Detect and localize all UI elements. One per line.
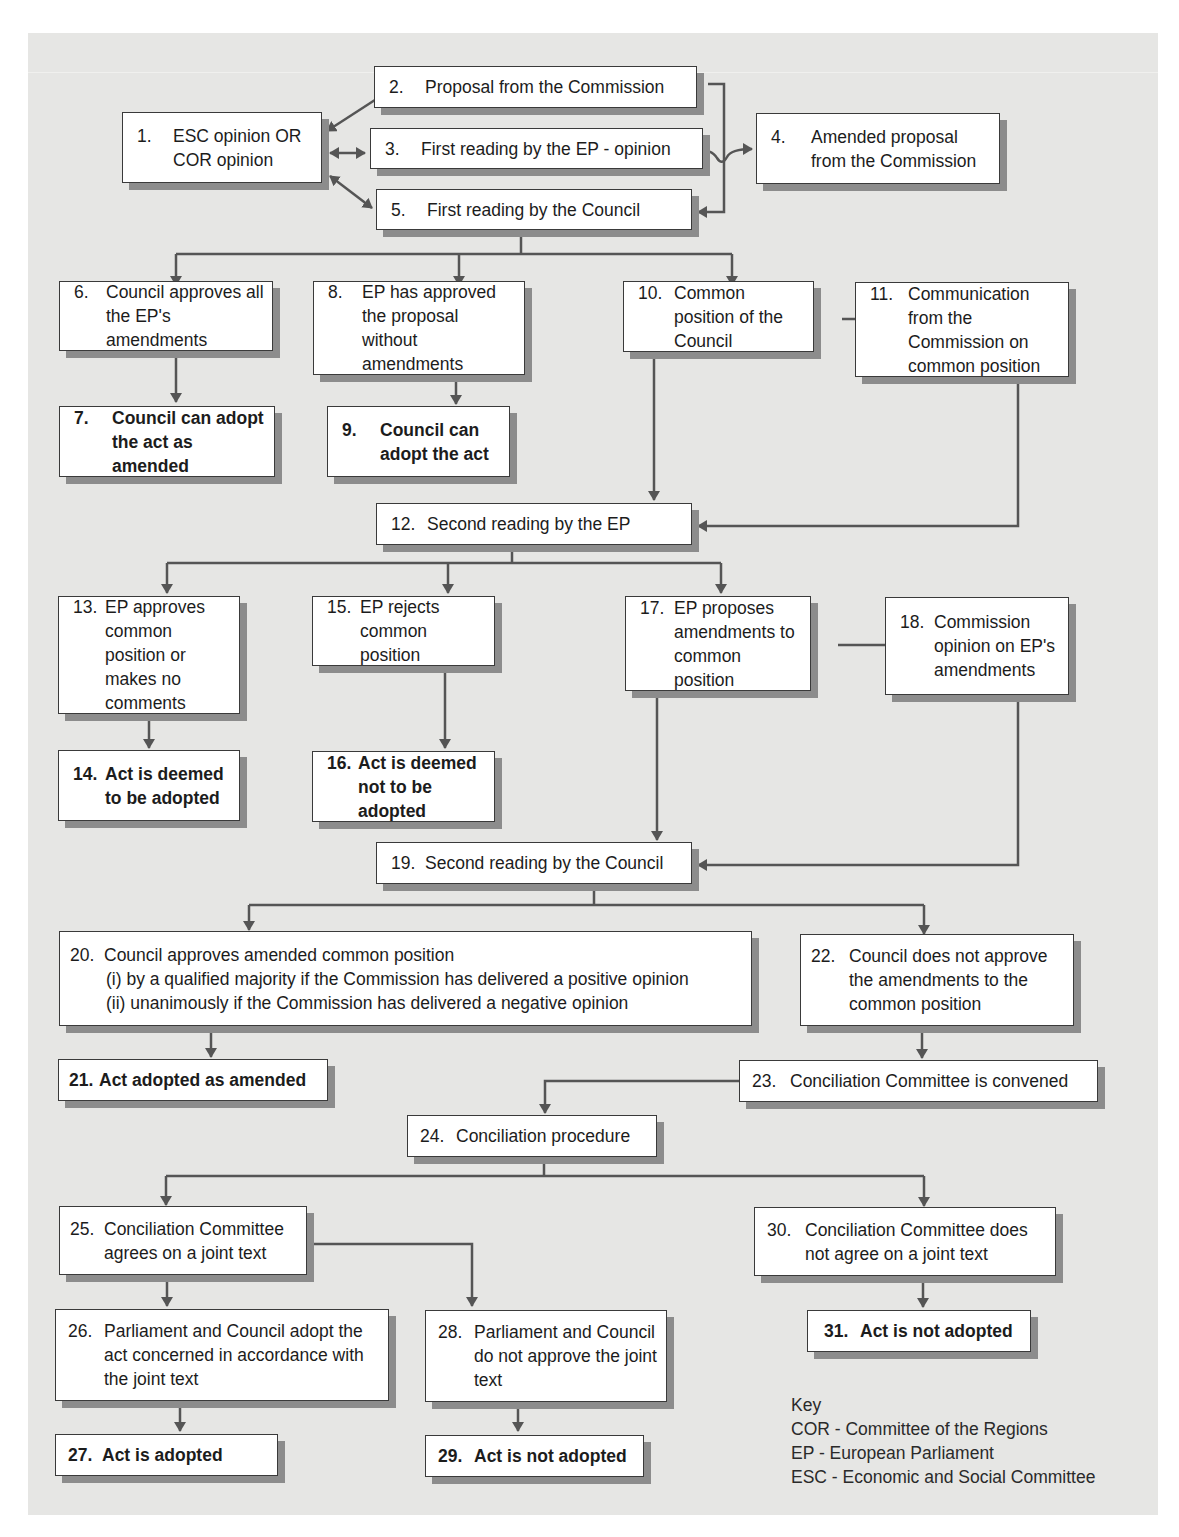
node-text: Conciliation Committee agrees on a joint…	[104, 1217, 306, 1265]
arrow-11-to-12	[698, 383, 1018, 526]
node-number: 23.	[740, 1069, 790, 1093]
node-text: Act is adopted	[102, 1443, 277, 1467]
node-number: 25.	[60, 1217, 104, 1265]
legend-entry-cor: COR - Committee of the Regions	[791, 1417, 1095, 1441]
node-number: 19.	[377, 851, 425, 875]
node-text: Parliament and Council do not approve th…	[474, 1320, 666, 1392]
node-text: EP approves common position or makes no …	[105, 595, 239, 715]
node-text: Council can adopt the act as amended	[112, 406, 274, 478]
node-text: ESC opinion OR COR opinion	[173, 124, 321, 172]
split-from-19	[249, 889, 924, 905]
node-number: 26.	[56, 1319, 104, 1391]
node-16-act-deemed-not-adopted: 16.Act is deemed not to be adopted	[312, 751, 495, 822]
node-text: Council does not approve the amendments …	[849, 944, 1073, 1016]
node-number: 31.	[808, 1319, 860, 1343]
node-23-conciliation-committee-convened: 23.Conciliation Committee is convened	[739, 1060, 1098, 1102]
node-text: Communication from the Commission on com…	[908, 282, 1068, 378]
node-30-committee-no-agreement: 30.Conciliation Committee does not agree…	[754, 1207, 1056, 1276]
node-text: First reading by the EP - opinion	[421, 137, 702, 161]
node-21-act-adopted-as-amended: 21.Act adopted as amended	[58, 1059, 328, 1101]
split-from-5	[176, 232, 732, 254]
node-18-commission-opinion-ep-amendments: 18.Commission opinion on EP's amendments	[885, 597, 1069, 695]
arrow-23-to-24	[545, 1081, 740, 1113]
node-text: Conciliation Committee does not agree on…	[805, 1218, 1055, 1266]
node-text: Amended proposal from the Commission	[811, 125, 999, 173]
node-3-first-reading-ep: 3.First reading by the EP - opinion	[370, 128, 703, 169]
node-number: 24.	[408, 1124, 456, 1148]
node-text: First reading by the Council	[427, 198, 691, 222]
node-number: 12.	[377, 512, 427, 536]
legend-key: Key COR - Committee of the Regions EP - …	[791, 1393, 1095, 1489]
node-text: Council approves amended common position	[104, 943, 751, 967]
arrow-1-5	[330, 176, 372, 208]
node-number: 6.	[60, 280, 106, 352]
node-number: 14.	[59, 762, 105, 810]
split-from-24	[166, 1158, 924, 1176]
node-text: Second reading by the Council	[425, 851, 691, 875]
node-number: 15.	[313, 595, 360, 667]
node-27-act-adopted: 27.Act is adopted	[55, 1434, 278, 1476]
legend-entry-ep: EP - European Parliament	[791, 1441, 1095, 1465]
node-number: 8.	[314, 280, 362, 376]
node-text: Council can adopt the act	[380, 418, 509, 466]
node-text: Act is not adopted	[474, 1444, 643, 1468]
node-7-council-can-adopt-as-amended: 7.Council can adopt the act as amended	[59, 406, 275, 477]
condition-qualified-majority: (i) by a qualified majority if the Commi…	[60, 967, 751, 991]
node-number: 10.	[624, 281, 674, 353]
node-number: 1.	[123, 124, 173, 172]
node-1-esc-cor-opinion: 1.ESC opinion OR COR opinion	[122, 112, 322, 183]
arrow-18-to-19	[698, 702, 1018, 865]
node-number: 17.	[626, 596, 674, 692]
node-20-council-approves-amended-position: 20.Council approves amended common posit…	[59, 931, 752, 1026]
split-from-12	[167, 547, 721, 563]
node-number: 21.	[59, 1068, 99, 1092]
node-text: Act adopted as amended	[99, 1068, 327, 1092]
node-number: 29.	[426, 1444, 474, 1468]
node-26-parliament-council-adopt: 26.Parliament and Council adopt the act …	[55, 1309, 389, 1401]
node-number: 7.	[60, 406, 112, 478]
node-29-act-not-adopted: 29.Act is not adopted	[425, 1435, 644, 1477]
node-number: 2.	[375, 75, 425, 99]
node-text: Second reading by the EP	[427, 512, 691, 536]
node-15-ep-rejects-common-position: 15.EP rejects common position	[312, 596, 495, 666]
node-text: EP proposes amendments to common positio…	[674, 596, 810, 692]
node-text: Commission opinion on EP's amendments	[934, 610, 1068, 682]
node-text: Parliament and Council adopt the act con…	[104, 1319, 388, 1391]
node-number: 3.	[371, 137, 421, 161]
node-9-council-can-adopt: 9.Council can adopt the act	[327, 406, 510, 477]
node-2-proposal-from-commission: 2.Proposal from the Commission	[374, 66, 697, 108]
node-number: 4.	[757, 125, 811, 173]
node-number: 27.	[56, 1443, 102, 1467]
node-text: Conciliation procedure	[456, 1124, 656, 1148]
node-number: 11.	[856, 282, 908, 378]
node-14-act-deemed-adopted: 14.Act is deemed to be adopted	[58, 750, 240, 821]
node-6-council-approves-amendments: 6.Council approves all the EP's amendmen…	[59, 281, 273, 351]
node-19-second-reading-council: 19.Second reading by the Council	[376, 842, 692, 884]
node-11-commission-communication: 11.Communication from the Commission on …	[855, 282, 1069, 377]
node-10-common-position-council: 10.Common position of the Council	[623, 281, 814, 352]
node-text: Act is deemed not to be adopted	[358, 751, 494, 823]
node-text: Act is not adopted	[860, 1319, 1030, 1343]
node-number: 30.	[755, 1218, 805, 1266]
node-25-committee-agrees-joint-text: 25.Conciliation Committee agrees on a jo…	[59, 1206, 307, 1275]
node-text: Act is deemed to be adopted	[105, 762, 239, 810]
node-text: EP rejects common position	[360, 595, 494, 667]
node-number: 5.	[377, 198, 427, 222]
node-number: 18.	[886, 610, 934, 682]
node-4-amended-proposal: 4.Amended proposal from the Commission	[756, 113, 1000, 184]
node-12-second-reading-ep: 12.Second reading by the EP	[376, 503, 692, 545]
node-8-ep-approved-without-amendments: 8.EP has approved the proposal without a…	[313, 281, 525, 375]
node-number: 20.	[60, 943, 104, 967]
node-text: Conciliation Committee is convened	[790, 1069, 1097, 1093]
node-5-first-reading-council: 5.First reading by the Council	[376, 189, 692, 230]
node-24-conciliation-procedure: 24.Conciliation procedure	[407, 1115, 657, 1157]
node-22-council-does-not-approve: 22.Council does not approve the amendmen…	[800, 934, 1074, 1026]
arrow-2-to-1	[327, 98, 378, 131]
condition-unanimously: (ii) unanimously if the Commission has d…	[60, 991, 751, 1015]
legend-entry-esc: ESC - Economic and Social Committee	[791, 1465, 1095, 1489]
node-text: Common position of the Council	[674, 281, 813, 353]
arrow-25-to-28	[306, 1244, 472, 1306]
node-13-ep-approves-common-position: 13.EP approves common position or makes …	[58, 596, 240, 714]
node-17-ep-proposes-amendments: 17.EP proposes amendments to common posi…	[625, 596, 811, 691]
node-number: 28.	[426, 1320, 474, 1392]
